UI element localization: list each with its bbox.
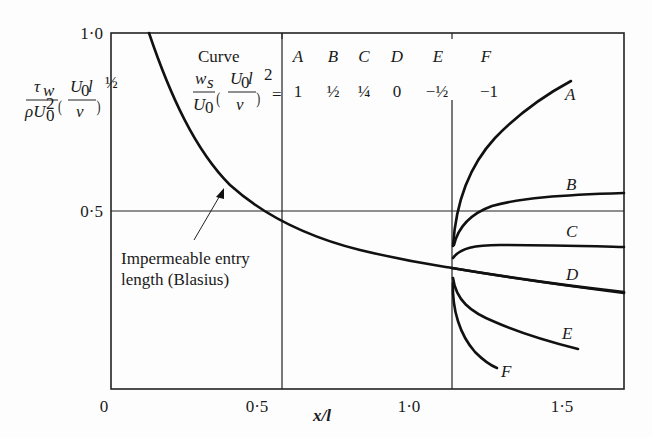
series-A bbox=[453, 81, 571, 246]
annotation-line-2: length (Blasius) bbox=[121, 270, 229, 289]
legend-value-E: −½ bbox=[426, 82, 449, 101]
legend-curve-F: F bbox=[480, 47, 492, 66]
svg-text:): ) bbox=[256, 89, 260, 109]
series-B bbox=[454, 193, 624, 245]
svg-text:ν: ν bbox=[236, 95, 244, 114]
legend-curve-E: E bbox=[432, 47, 444, 66]
label-F: F bbox=[500, 362, 512, 381]
legend-value-A: 1 bbox=[294, 82, 303, 101]
legend-value-D: 0 bbox=[393, 82, 402, 101]
label-E: E bbox=[561, 324, 573, 343]
svg-text:s: s bbox=[207, 73, 214, 92]
y-axis-label: τ w ρU 2 0 ( U 0 l ν ) ½ bbox=[24, 73, 118, 125]
series-C bbox=[453, 245, 624, 258]
svg-text:): ) bbox=[97, 97, 101, 117]
legend-value-B: ½ bbox=[327, 82, 340, 101]
legend-header: Curve bbox=[198, 47, 240, 66]
legend-curve-C: C bbox=[358, 47, 370, 66]
legend-value-C: ¼ bbox=[358, 82, 371, 101]
blasius-annotation: Impermeable entry length (Blasius) bbox=[121, 188, 250, 289]
y-tick-0.5: 0·5 bbox=[80, 202, 103, 221]
legend-curve-D: D bbox=[390, 47, 404, 66]
svg-text:w: w bbox=[195, 69, 207, 88]
svg-text:(: ( bbox=[216, 89, 220, 109]
svg-text:0: 0 bbox=[46, 106, 55, 125]
legend-parameter-expression: w s U 0 ( U 0 l ν ) 2 = bbox=[193, 65, 282, 117]
svg-text:l: l bbox=[88, 77, 93, 96]
x-axis-label: x/l bbox=[312, 406, 331, 425]
legend-curve-B: B bbox=[328, 47, 339, 66]
label-C: C bbox=[566, 222, 578, 241]
svg-text:ρU: ρU bbox=[24, 102, 47, 121]
legend-curve-A: A bbox=[292, 47, 304, 66]
svg-text:=: = bbox=[272, 85, 282, 104]
svg-text:2: 2 bbox=[264, 65, 273, 84]
x-tick-1.5: 1·5 bbox=[551, 397, 574, 416]
x-tick-0: 0 bbox=[100, 397, 109, 416]
svg-text:½: ½ bbox=[105, 73, 118, 92]
svg-text:(: ( bbox=[58, 97, 62, 117]
svg-text:l: l bbox=[248, 69, 253, 88]
legend-value-F: −1 bbox=[480, 82, 498, 101]
y-tick-1.0: 1·0 bbox=[80, 24, 103, 43]
x-tick-1.0: 1·0 bbox=[398, 397, 421, 416]
series-D bbox=[452, 268, 624, 292]
svg-text:τ: τ bbox=[34, 77, 41, 96]
line-chart: 1·0 0·5 0 0·5 1·0 1·5 x/l τ w ρU 2 0 ( U… bbox=[0, 0, 652, 438]
series-E bbox=[453, 278, 578, 349]
label-D: D bbox=[565, 265, 579, 284]
label-B: B bbox=[566, 175, 577, 194]
svg-text:ν: ν bbox=[76, 102, 84, 121]
x-tick-0.5: 0·5 bbox=[246, 397, 269, 416]
annotation-line-1: Impermeable entry bbox=[121, 249, 250, 268]
svg-text:0: 0 bbox=[205, 98, 214, 117]
label-A: A bbox=[564, 85, 576, 104]
